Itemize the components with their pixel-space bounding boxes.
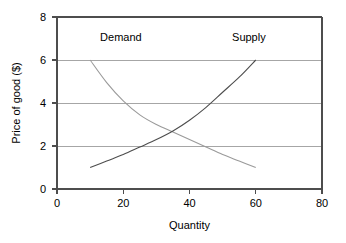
y-tick-label-6: 6 [40,54,46,66]
y-tick-label-2: 2 [40,140,46,152]
x-tick-label-40: 40 [183,197,195,209]
x-tick-label-80: 80 [316,197,328,209]
chart-background [0,0,346,243]
x-tick-label-20: 20 [117,197,129,209]
supply-demand-chart: 0 2 4 6 8 0 20 40 60 80 Quantity Price o… [0,0,346,243]
y-tick-label-8: 8 [40,11,46,23]
x-tick-label-60: 60 [250,197,262,209]
y-axis-title: Price of good ($) [10,62,22,143]
chart-canvas: 0 2 4 6 8 0 20 40 60 80 Quantity Price o… [0,0,346,243]
x-axis-title: Quantity [169,219,210,231]
x-tick-label-0: 0 [54,197,60,209]
y-tick-label-0: 0 [40,183,46,195]
supply-series-label: Supply [232,31,266,43]
demand-series-label: Demand [100,31,142,43]
y-tick-label-4: 4 [40,97,46,109]
